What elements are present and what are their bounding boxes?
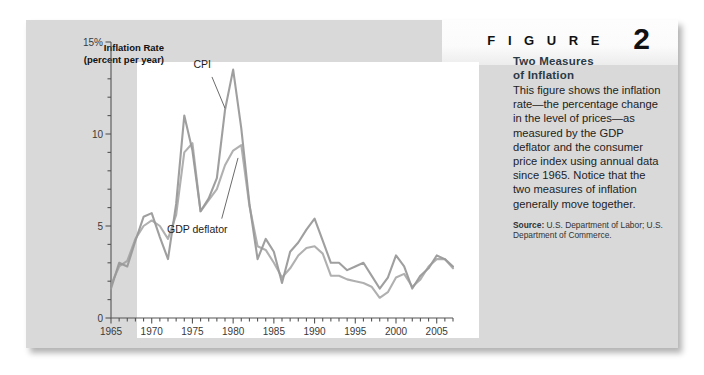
x-tick-label: 1980 (222, 326, 245, 337)
series-line-gdp-deflator (111, 143, 453, 298)
y-tick-label: 5 (97, 221, 103, 232)
caption-source: Source: U.S. Department of Labor; U.S. D… (513, 220, 663, 241)
x-tick-label: 2005 (426, 326, 449, 337)
caption-body: This figure shows the inflation rate—the… (513, 83, 663, 211)
caption-title: Two Measures of Inflation (513, 54, 663, 82)
caption-source-label: Source: (513, 220, 544, 230)
series-line-cpi (111, 70, 453, 289)
x-tick-label: 1985 (263, 326, 286, 337)
y-tick-label: 15% (83, 37, 103, 48)
axes-layer: 051015%196519701975198019851990199520002… (83, 37, 453, 337)
x-tick-label: 1975 (181, 326, 204, 337)
caption-title-line1: Two Measures (513, 54, 663, 68)
y-tick-label: 0 (97, 313, 103, 324)
figure-page: F I G U R E 2 Inflation Rate (percent pe… (0, 0, 704, 375)
x-tick-label: 1965 (100, 326, 123, 337)
caption-title-line2: of Inflation (513, 68, 663, 82)
annotation-label: CPI (193, 58, 211, 70)
x-tick-label: 1990 (303, 326, 326, 337)
x-tick-label: 1995 (344, 326, 367, 337)
figure-caption: Two Measures of Inflation This figure sh… (513, 54, 663, 241)
annotation-label: GDP deflator (167, 223, 228, 235)
x-tick-label: 1970 (141, 326, 164, 337)
y-tick-label: 10 (92, 129, 104, 140)
x-tick-label: 2000 (385, 326, 408, 337)
annotation-leader (212, 77, 225, 108)
series-layer (111, 70, 453, 298)
